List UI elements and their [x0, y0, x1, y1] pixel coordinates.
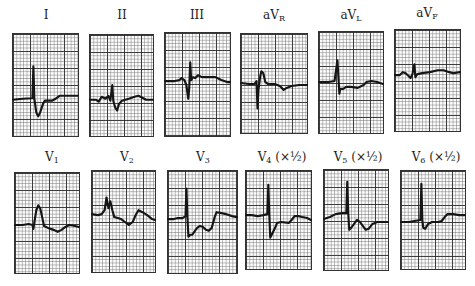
ecg-trace-V1 — [15, 173, 79, 273]
ecg-panel-III — [164, 32, 231, 137]
lead-name: V — [412, 150, 421, 164]
ecg-panel-II — [89, 34, 154, 137]
lead-name: V — [258, 150, 267, 164]
lead-name: V — [45, 150, 54, 164]
lead-label-I: I — [44, 8, 49, 23]
ecg-trace-V3 — [168, 171, 237, 273]
ecg-panel-V4 — [245, 170, 312, 270]
lead-subscript: 1 — [54, 156, 59, 165]
lead-label-V4: V4 (×½) — [258, 150, 307, 165]
ecg-panel-V5 — [323, 169, 389, 271]
ecg-trace-V4 — [246, 171, 311, 269]
ecg-panel-I — [12, 33, 79, 137]
lead-subscript: R — [279, 14, 285, 23]
lead-gain-note: (×½) — [347, 150, 382, 164]
ecg-trace-aVR — [241, 34, 307, 133]
lead-label-II: II — [117, 8, 126, 23]
ecg-trace-III — [165, 33, 230, 136]
lead-name: aV — [263, 8, 279, 22]
lead-name: II — [117, 8, 126, 22]
ecg-panel-V3 — [167, 170, 238, 274]
ecg-trace-I — [13, 34, 78, 136]
lead-label-V2: V2 — [120, 150, 134, 165]
ecg-panel-aVF — [394, 29, 461, 132]
ecg-trace-aVL — [319, 32, 383, 133]
lead-label-V1: V1 — [45, 150, 59, 165]
lead-name: aV — [416, 6, 432, 20]
ecg-trace-II — [90, 35, 153, 136]
lead-gain-note: (×½) — [271, 150, 306, 164]
ecg-panel-V6 — [400, 170, 466, 270]
lead-subscript: F — [432, 12, 438, 21]
lead-name: V — [334, 150, 343, 164]
lead-name: V — [196, 150, 205, 164]
lead-name: I — [44, 8, 49, 22]
lead-subscript: 3 — [205, 156, 210, 165]
lead-label-V3: V3 — [196, 150, 210, 165]
ecg-panel-aVL — [318, 31, 384, 134]
ecg-trace-V6 — [401, 171, 465, 269]
lead-gain-note: (×½) — [425, 150, 460, 164]
lead-subscript: L — [356, 14, 361, 23]
ecg-trace-V5 — [324, 170, 388, 270]
lead-label-V5: V5 (×½) — [334, 150, 383, 165]
lead-name: aV — [340, 8, 356, 22]
lead-name: III — [190, 8, 204, 22]
ecg-trace-aVF — [395, 30, 460, 131]
ecg-trace-V2 — [92, 171, 155, 272]
ecg-panel-V2 — [91, 170, 156, 273]
lead-label-aVF: aVF — [416, 6, 437, 21]
lead-label-III: III — [190, 8, 204, 23]
lead-name: V — [120, 150, 129, 164]
ecg-panel-aVR — [240, 33, 308, 134]
lead-label-aVL: aVL — [340, 8, 361, 23]
lead-label-aVR: aVR — [263, 8, 285, 23]
lead-label-V6: V6 (×½) — [412, 150, 461, 165]
ecg-panel-V1 — [14, 172, 80, 274]
lead-subscript: 2 — [129, 156, 134, 165]
